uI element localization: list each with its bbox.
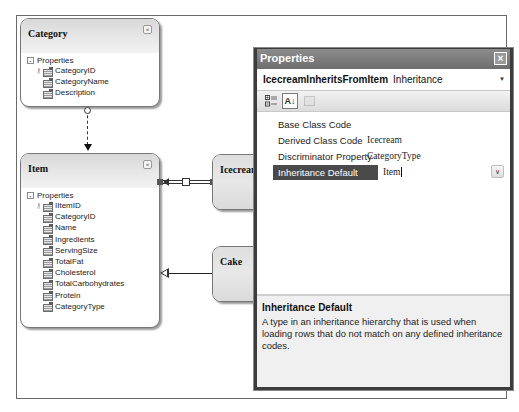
property-icon — [43, 269, 52, 277]
property-item[interactable]: ServingSize — [21, 245, 159, 256]
property-item[interactable]: CategoryName — [21, 76, 159, 87]
association-arrow-icon — [84, 144, 92, 151]
property-item[interactable]: TotalFat — [21, 256, 159, 267]
key-icon: ⚷ — [36, 67, 41, 75]
categorized-button[interactable] — [263, 93, 279, 109]
property-icon — [43, 258, 52, 266]
properties-section[interactable]: - Properties — [21, 53, 159, 65]
section-label: Properties — [37, 56, 73, 65]
property-value[interactable]: CategoryType — [362, 151, 421, 161]
property-row-base-class-code[interactable]: Base Class Code — [257, 116, 510, 132]
object-type: Inheritance — [393, 74, 442, 90]
property-value[interactable]: Icecream — [362, 135, 402, 145]
window-title: Properties — [260, 52, 314, 64]
categorized-icon — [265, 95, 278, 107]
selection-handle-middle[interactable] — [182, 178, 190, 186]
property-item[interactable]: Name — [21, 222, 159, 233]
property-pages-icon — [304, 96, 315, 106]
property-icon — [43, 213, 52, 221]
alphabetical-button[interactable]: A↓ — [282, 93, 298, 109]
property-name: Discriminator Property — [257, 149, 362, 164]
property-icon — [43, 202, 52, 210]
inheritance-line-cake[interactable] — [168, 273, 212, 274]
minus-icon[interactable]: - — [27, 192, 34, 199]
entity-title: Cake — [220, 256, 242, 267]
property-item[interactable]: ⚷IItemID — [21, 200, 159, 211]
collapse-icon[interactable]: « — [143, 25, 152, 34]
entity-title: Item — [28, 163, 48, 174]
property-icon — [43, 67, 52, 75]
sort-az-icon: A↓ — [285, 96, 296, 106]
property-item[interactable]: TotalCarbohydrates — [21, 278, 159, 289]
property-item[interactable]: Protein — [21, 290, 159, 301]
inheritance-arrow-fill — [162, 270, 167, 276]
property-item[interactable]: Description — [21, 87, 159, 98]
close-icon[interactable]: × — [494, 52, 507, 65]
property-name: Derived Class Code — [257, 133, 362, 148]
property-pages-button[interactable] — [301, 93, 317, 109]
chevron-down-icon[interactable]: ∨ — [491, 165, 504, 178]
property-item[interactable]: Ingredients — [21, 234, 159, 245]
entity-header[interactable]: Item « — [21, 154, 159, 188]
property-icon — [43, 280, 52, 288]
text-caret — [401, 167, 402, 177]
property-item[interactable]: CategoryID — [21, 211, 159, 222]
properties-window[interactable]: Properties × IcecreamInheritsFromItem In… — [254, 48, 513, 390]
property-row-discriminator-property[interactable]: Discriminator Property CategoryType — [257, 148, 510, 164]
object-selector[interactable]: IcecreamInheritsFromItem Inheritance ▼ — [257, 69, 510, 91]
key-icon: ⚷ — [36, 202, 41, 210]
property-icon — [43, 235, 52, 243]
property-item[interactable]: ⚷CategoryID — [21, 65, 159, 76]
association-end-circle — [84, 107, 91, 114]
entity-header[interactable]: Category « — [21, 19, 159, 53]
property-icon — [43, 302, 52, 310]
property-row-inheritance-default[interactable]: Inheritance Default Item ∨ — [257, 164, 510, 180]
association-line[interactable] — [87, 110, 88, 145]
properties-title-bar[interactable]: Properties × — [257, 49, 510, 69]
section-label: Properties — [37, 191, 73, 200]
property-grid: Base Class Code Derived Class Code Icecr… — [257, 112, 510, 298]
minus-icon[interactable]: - — [27, 57, 34, 64]
property-icon — [43, 224, 52, 232]
property-item[interactable]: Cholesterol — [21, 267, 159, 278]
properties-toolbar: A↓ — [257, 91, 510, 112]
property-name: Base Class Code — [257, 117, 362, 132]
property-icon — [43, 89, 52, 97]
description-pane: Inheritance Default A type in an inherit… — [257, 294, 510, 387]
inheritance-arrow-icon — [163, 178, 169, 186]
entity-category[interactable]: Category « - Properties ⚷CategoryID Cate… — [20, 18, 160, 107]
description-title: Inheritance Default — [262, 302, 506, 313]
property-item[interactable]: CategoryType — [21, 301, 159, 312]
object-name: IcecreamInheritsFromItem — [263, 74, 388, 90]
entity-title: Category — [28, 28, 67, 39]
properties-section[interactable]: - Properties — [21, 188, 159, 200]
description-text: A type in an inheritance hierarchy that … — [262, 316, 506, 352]
chevron-down-icon[interactable]: ▼ — [499, 76, 505, 82]
property-value-input[interactable]: Item — [378, 167, 402, 178]
property-name: Inheritance Default — [273, 165, 378, 180]
entity-item[interactable]: Item « - Properties ⚷IItemID CategoryID … — [20, 153, 160, 328]
property-icon — [43, 291, 52, 299]
property-row-derived-class-code[interactable]: Derived Class Code Icecream — [257, 132, 510, 148]
collapse-icon[interactable]: « — [143, 160, 152, 169]
property-icon — [43, 78, 52, 86]
property-icon — [43, 246, 52, 254]
